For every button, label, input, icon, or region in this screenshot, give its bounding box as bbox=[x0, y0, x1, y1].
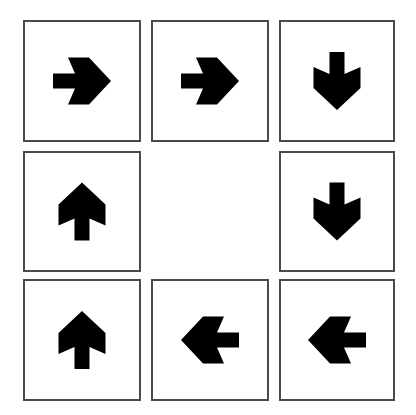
arrow-up-icon bbox=[25, 153, 139, 270]
arrow-tile-2-0[interactable] bbox=[23, 279, 141, 401]
arrow-left-icon bbox=[153, 281, 267, 399]
arrow-down-icon bbox=[281, 153, 393, 270]
empty-slot bbox=[151, 151, 269, 272]
arrow-tile-1-2[interactable] bbox=[279, 151, 395, 272]
arrow-left-icon bbox=[281, 281, 393, 399]
arrow-tile-grid bbox=[0, 0, 416, 415]
arrow-tile-0-1[interactable] bbox=[151, 20, 269, 142]
arrow-down-icon bbox=[281, 22, 393, 140]
arrow-tile-2-2[interactable] bbox=[279, 279, 395, 401]
arrow-up-icon bbox=[25, 281, 139, 399]
arrow-tile-0-2[interactable] bbox=[279, 20, 395, 142]
arrow-tile-1-0[interactable] bbox=[23, 151, 141, 272]
arrow-right-icon bbox=[25, 22, 139, 140]
arrow-tile-2-1[interactable] bbox=[151, 279, 269, 401]
arrow-right-icon bbox=[153, 22, 267, 140]
arrow-tile-0-0[interactable] bbox=[23, 20, 141, 142]
